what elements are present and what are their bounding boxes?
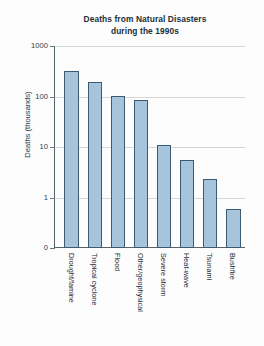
bar <box>64 71 78 248</box>
x-axis-category-label: Flood <box>113 253 121 271</box>
bar <box>111 96 125 248</box>
x-axis-category-label: Tsunami <box>205 253 213 280</box>
y-axis-tick <box>50 147 55 148</box>
x-axis-category-label: Bushfire <box>228 253 236 280</box>
y-axis-tick <box>50 97 55 98</box>
chart-title: Deaths from Natural Disasters during the… <box>40 14 250 37</box>
chart-title-line-2: during the 1990s <box>40 26 250 38</box>
y-axis-title: Deaths (thousands) <box>23 65 32 185</box>
bar <box>88 82 102 248</box>
y-axis-tick <box>50 198 55 199</box>
x-axis-category-label: Severe storm <box>159 253 167 296</box>
bar <box>226 209 240 248</box>
gridline <box>54 97 245 98</box>
gridline <box>54 46 245 47</box>
bar <box>134 100 148 248</box>
x-axis-category-label: Heat-wave <box>182 253 190 288</box>
y-axis-tick-label: 1 <box>44 194 48 202</box>
gridline <box>54 147 245 148</box>
y-axis-tick <box>50 46 55 47</box>
bar <box>180 160 194 248</box>
y-axis-tick-label: 100 <box>35 93 48 101</box>
x-axis-category-label: Tropical cyclone <box>90 253 98 305</box>
y-axis-tick-label: 0 <box>44 244 48 252</box>
plot-area: 10001001010 Drought/famineTropical cyclo… <box>54 46 245 248</box>
x-axis-category-label: Other/geophysical <box>136 253 144 312</box>
bar <box>157 145 171 248</box>
y-axis-tick-label: 10 <box>40 143 48 151</box>
bar <box>203 179 217 248</box>
y-axis-tick-label: 1000 <box>31 42 48 50</box>
y-axis-tick <box>50 248 55 249</box>
chart-figure: Deaths from Natural Disasters during the… <box>0 0 264 346</box>
x-axis-category-label: Drought/famine <box>67 253 75 303</box>
chart-title-line-1: Deaths from Natural Disasters <box>84 14 207 24</box>
